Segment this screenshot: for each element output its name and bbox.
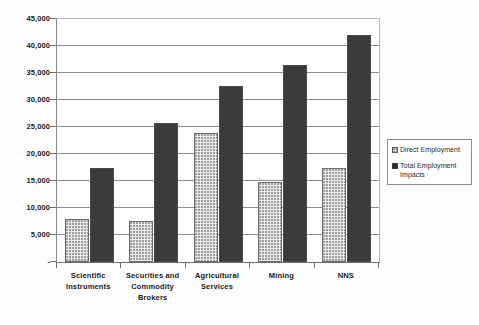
bar-total-employment-impacts [154,123,178,262]
bar-direct-employment [322,168,346,262]
category-label-line: Securities and [126,271,179,280]
legend-swatch-total-employment-impacts [392,163,398,169]
x-axis-tick [56,263,57,268]
y-axis-tick [50,153,56,154]
category-label-line: Instruments [66,282,111,291]
bar-direct-employment [194,133,218,262]
plot-area [56,18,380,263]
y-axis-tick-label: 35,000 [2,68,50,77]
y-axis-tick-label: 20,000 [2,149,50,158]
y-axis-tick-label: - [2,257,50,266]
y-axis-tick-label: 10,000 [2,203,50,212]
y-axis: -5,00010,00015,00020,00025,00030,00035,0… [0,0,50,325]
x-axis-tick [249,263,250,268]
y-axis-tick [50,45,56,46]
x-axis-tick [378,263,379,268]
bar-chart: -5,00010,00015,00020,00025,00030,00035,0… [0,0,479,325]
legend-item-direct-employment: Direct Employment [392,145,468,154]
legend-label-line-2: Impacts [400,171,425,178]
gridline [57,72,379,73]
gridline [57,45,379,46]
x-axis-category-label: ScientificInstruments [56,270,120,292]
x-axis-tick [314,263,315,268]
category-label-line: NNS [338,271,354,280]
category-label-line: Agricultural [195,271,239,280]
legend-item-total-employment-impacts: Total Employment Impacts [392,161,468,179]
legend-swatch-direct-employment [392,147,398,153]
x-axis-category-label: AgriculturalServices [185,270,249,292]
y-axis-tick [50,207,56,208]
legend-label-total-employment-impacts: Total Employment Impacts [400,161,456,179]
category-label-line: Scientific [71,271,106,280]
y-axis-tick-label: 40,000 [2,41,50,50]
category-label-line: Brokers [138,293,167,302]
bar-total-employment-impacts [347,35,371,262]
y-axis-tick-label: 30,000 [2,95,50,104]
bar-direct-employment [129,221,153,262]
bar-direct-employment [258,182,282,262]
y-axis-tick [50,180,56,181]
x-axis-category-label: Mining [249,270,313,281]
x-axis-category-label: Securities andCommodityBrokers [120,270,184,303]
bar-total-employment-impacts [90,168,114,263]
x-axis-category-labels: ScientificInstrumentsSecurities andCommo… [56,270,380,320]
y-axis-tick [50,18,56,19]
y-axis-tick [50,99,56,100]
bar-total-employment-impacts [219,86,243,262]
x-axis-category-label: NNS [314,270,378,281]
x-axis-tick [120,263,121,268]
y-axis-tick-label: 15,000 [2,176,50,185]
category-label-line: Mining [269,271,294,280]
x-axis-tick [185,263,186,268]
y-axis-tick-label: 25,000 [2,122,50,131]
y-axis-tick-label: 45,000 [2,14,50,23]
bar-total-employment-impacts [283,65,307,262]
y-axis-tick [50,261,56,262]
y-axis-tick [50,126,56,127]
y-axis-tick-label: 5,000 [2,230,50,239]
chart-legend: Direct Employment Total Employment Impac… [387,139,472,185]
category-label-line: Commodity [131,282,174,291]
y-axis-tick [50,72,56,73]
category-label-line: Services [201,282,233,291]
legend-label-direct-employment: Direct Employment [400,145,460,154]
legend-label-line-1: Total Employment [400,162,456,169]
y-axis-tick [50,234,56,235]
bar-direct-employment [65,219,89,262]
